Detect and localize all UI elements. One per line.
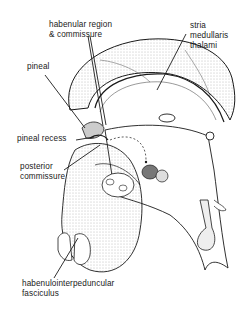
label-pineal: pineal [27, 62, 49, 72]
label-habenulointerpeduncular-fasciculus: habenulointerpeduncular fasciculus [22, 279, 114, 299]
label-line: posterior [20, 162, 65, 172]
label-pineal-recess: pineal recess [17, 134, 67, 144]
label-line: fasciculus [22, 289, 114, 299]
epithalamus-diagram: habenular region & commissure stria medu… [0, 0, 249, 309]
label-stria-medullaris: stria medullaris thalami [190, 21, 228, 51]
label-habenular-region: habenular region & commissure [49, 20, 112, 40]
label-line: medullaris [190, 31, 228, 41]
label-line: commissure [20, 172, 65, 182]
label-line: & commissure [49, 30, 112, 40]
label-line: stria [190, 21, 228, 31]
label-line: habenular region [49, 20, 112, 30]
label-line: habenulointerpeduncular [22, 279, 114, 289]
label-line: thalami [190, 41, 228, 51]
label-posterior-commissure: posterior commissure [20, 162, 65, 182]
